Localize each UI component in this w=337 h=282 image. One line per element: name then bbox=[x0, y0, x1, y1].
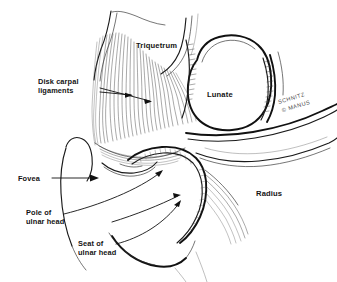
label-triquetrum: Triquetrum bbox=[136, 41, 177, 50]
label-lunate: Lunate bbox=[207, 90, 233, 99]
label-pole-of-ulnar-head-line2: ulnar head bbox=[26, 217, 65, 226]
label-pole-of-ulnar-head-line1: Pole of bbox=[26, 208, 52, 217]
lunate-bone bbox=[188, 35, 271, 130]
label-disk-carpal-ligaments-line1: Disk carpal bbox=[38, 77, 79, 86]
anatomy-figure: SCHNITZ © MANUS Triquetrum bbox=[0, 0, 337, 282]
wrist-anatomy-drawing: SCHNITZ © MANUS Triquetrum bbox=[0, 0, 337, 282]
label-seat-of-ulnar-head-line2: ulnar head bbox=[78, 248, 117, 257]
label-radius: Radius bbox=[256, 189, 282, 198]
label-disk-carpal-ligaments-line2: ligaments bbox=[38, 86, 73, 95]
label-fovea: Fovea bbox=[18, 174, 41, 183]
label-seat-of-ulnar-head-line1: Seat of bbox=[78, 239, 104, 248]
